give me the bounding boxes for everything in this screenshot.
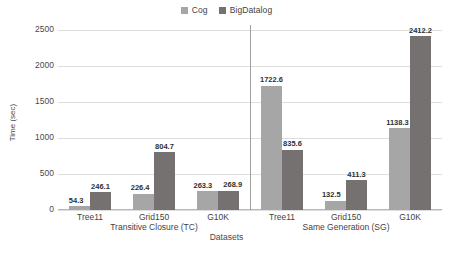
x-axis-title: Datasets (0, 232, 453, 242)
bar-wrap-cog: 1722.6 (261, 30, 282, 210)
y-tick-label-2000: 2000 (8, 61, 54, 70)
bar-cog[interactable] (325, 201, 346, 211)
bar-group-tc-g10k: 263.3 268.9 (186, 30, 250, 210)
bar-value-cog: 132.5 (322, 191, 341, 199)
bar-bigdatalog[interactable] (410, 36, 431, 210)
legend-label-bigdatalog: BigDatalog (230, 6, 273, 15)
legend-label-cog: Cog (192, 6, 208, 15)
bar-bigdatalog[interactable] (218, 191, 239, 210)
y-tick-label-2500: 2500 (8, 25, 54, 34)
bar-cog[interactable] (133, 194, 154, 210)
bar-bigdatalog[interactable] (346, 180, 367, 210)
bar-wrap-bigdatalog: 246.1 (90, 30, 111, 210)
bar-chart: Cog BigDatalog Time (sec) 2500 2000 1500… (0, 0, 453, 260)
bar-value-bigdatalog: 835.6 (283, 140, 302, 148)
legend-item-cog: Cog (181, 6, 208, 15)
bar-group-sg-grid150: 132.5 411.3 (314, 30, 378, 210)
bar-wrap-cog: 132.5 (325, 30, 346, 210)
bar-value-cog: 1722.6 (260, 76, 283, 84)
legend-swatch-cog (181, 7, 188, 14)
bar-cog[interactable] (197, 191, 218, 210)
bar-wrap-cog: 54.3 (69, 30, 90, 210)
bar-bigdatalog[interactable] (90, 192, 111, 210)
bar-group-sg-tree11: 1722.6 835.6 (250, 30, 314, 210)
bar-value-bigdatalog: 268.9 (223, 181, 242, 189)
y-tick-label-1000: 1000 (8, 133, 54, 142)
bar-value-bigdatalog: 411.3 (347, 171, 365, 179)
bar-wrap-bigdatalog: 2412.2 (410, 30, 431, 210)
bar-cog[interactable] (69, 206, 90, 210)
bar-cog[interactable] (261, 86, 282, 210)
bar-wrap-bigdatalog: 804.7 (154, 30, 175, 210)
bar-wrap-bigdatalog: 835.6 (282, 30, 303, 210)
y-tick-label-1500: 1500 (8, 97, 54, 106)
y-tick-label-0: 0 (8, 205, 54, 214)
bar-bigdatalog[interactable] (154, 152, 175, 210)
bar-wrap-cog: 263.3 (197, 30, 218, 210)
bar-value-bigdatalog: 804.7 (155, 143, 174, 151)
bar-bigdatalog[interactable] (282, 150, 303, 210)
bar-group-sg-g10k: 1138.3 2412.2 (378, 30, 442, 210)
bar-cog[interactable] (389, 128, 410, 210)
bar-value-cog: 226.4 (131, 184, 150, 192)
bar-value-cog: 1138.3 (386, 119, 409, 127)
bar-group-tc-tree11: 54.3 246.1 (58, 30, 122, 210)
chart-legend: Cog BigDatalog (0, 6, 453, 15)
bar-value-cog: 263.3 (193, 182, 212, 190)
legend-swatch-bigdatalog (219, 7, 226, 14)
y-tick-label-500: 500 (8, 169, 54, 178)
bar-wrap-bigdatalog: 411.3 (346, 30, 367, 210)
bar-value-cog: 54.3 (69, 197, 84, 205)
bar-group-tc-grid150: 226.4 804.7 (122, 30, 186, 210)
gridline-0: 0 (58, 210, 442, 211)
bar-value-bigdatalog: 246.1 (91, 183, 110, 191)
bar-value-bigdatalog: 2412.2 (409, 27, 432, 35)
plot-area: 2500 2000 1500 1000 500 0 54.3 (58, 30, 442, 210)
bar-wrap-cog: 1138.3 (389, 30, 410, 210)
legend-item-bigdatalog: BigDatalog (219, 6, 273, 15)
bar-groups: 54.3 246.1 226.4 804.7 (58, 30, 442, 210)
bar-wrap-cog: 226.4 (133, 30, 154, 210)
bar-wrap-bigdatalog: 268.9 (218, 30, 239, 210)
